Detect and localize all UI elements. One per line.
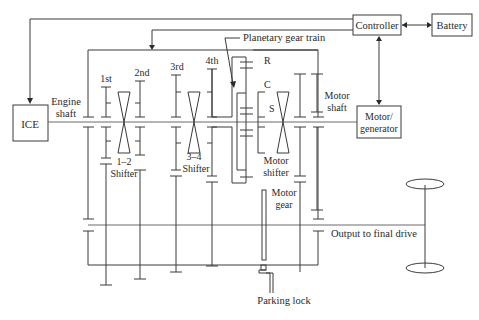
planetary-gear-train-label: Planetary gear train: [243, 32, 326, 43]
motor-shaft-label-2: shaft: [327, 102, 347, 113]
hybrid-transmission-diagram: Controller Battery Motor/ generator ICE …: [0, 0, 479, 320]
controller-block: Controller: [353, 15, 401, 35]
shifter-1-2-label-2: Shifter: [110, 168, 138, 179]
shifter-3-4-label-2: Shifter: [182, 163, 210, 174]
sun-label: S: [269, 103, 275, 114]
motor-gear-label-2: gear: [275, 199, 293, 210]
motor-shifter-label-2: shifter: [263, 167, 289, 178]
controller-label: Controller: [355, 20, 399, 31]
gear-3rd: [170, 75, 182, 272]
shifter-1-2-label-1: 1–2: [117, 156, 132, 167]
transmission-housing: [88, 50, 318, 117]
ice-block: ICE: [13, 105, 48, 141]
ice-label: ICE: [21, 118, 39, 130]
motor-generator-label-2: generator: [360, 123, 398, 134]
battery-block: Battery: [432, 14, 472, 36]
carrier-label: C: [264, 79, 271, 90]
engine-shaft-label-1: Engine: [51, 96, 81, 107]
battery-label: Battery: [437, 20, 469, 31]
gear-4th-label: 4th: [206, 55, 219, 66]
motor-shaft-label-1: Motor: [325, 90, 351, 101]
transmission-housing-lower: [88, 231, 318, 265]
gear-2nd: [134, 81, 146, 279]
gear-2nd-label: 2nd: [135, 67, 150, 78]
parking-lock: [259, 265, 273, 293]
final-drive-axle: [406, 179, 444, 273]
shifter-3-4-label-1: 3–4: [187, 151, 202, 162]
motor-side-gear-1: [294, 74, 306, 272]
controller-battery-link: [402, 22, 432, 28]
output-label: Output to final drive: [331, 228, 417, 239]
engine-shaft-label-2: shaft: [56, 108, 76, 119]
motor-gear-label-1: Motor: [272, 187, 298, 198]
motor-generator-label-1: Motor/: [365, 111, 393, 122]
gear-3rd-label: 3rd: [170, 61, 183, 72]
parking-lock-label: Parking lock: [257, 295, 311, 306]
ring-label: R: [264, 55, 271, 66]
motor-shifter-label-1: Motor: [264, 155, 290, 166]
motor-side-gear-2: [311, 74, 323, 210]
gear-1st: [100, 87, 112, 285]
motor-generator-block: Motor/ generator: [357, 106, 401, 138]
gear-1st-label: 1st: [100, 73, 112, 84]
controller-motor-link: [376, 36, 382, 105]
planetary-gear-train: [212, 57, 265, 183]
